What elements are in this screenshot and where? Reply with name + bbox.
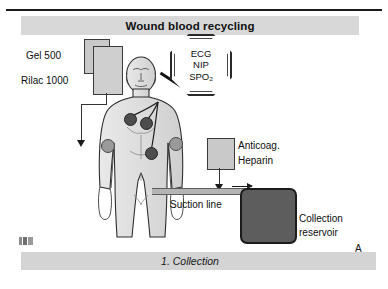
label-reservoir: reservoir — [299, 226, 338, 239]
monitor-line-nip: NIP — [193, 59, 209, 71]
collection-reservoir-icon — [240, 188, 297, 244]
label-gel-500: Gel 500 — [26, 49, 61, 62]
ecg-electrode-right-chest — [124, 113, 137, 126]
monitor-line-ecg: ECG — [191, 48, 212, 60]
label-rilac-1000: Rilac 1000 — [21, 74, 68, 87]
label-suction-line: Suction line — [170, 198, 222, 211]
monitor-octagon-icon: ECG NIP SPO₂ — [170, 34, 232, 96]
figure-panel: Wound blood recycling Gel 500 Rilac 1000 — [0, 0, 388, 289]
electrode-right-arm — [101, 139, 115, 153]
artist-signature-icon — [19, 237, 33, 245]
panel-letter: A — [355, 243, 362, 254]
ecg-electrode-left-chest — [140, 117, 153, 130]
label-collection: Collection — [299, 212, 343, 225]
figure-caption: 1. Collection — [21, 252, 359, 270]
iv-infusion-arrow-icon — [77, 140, 85, 147]
electrode-left-arm — [169, 137, 183, 151]
figure-title: Wound blood recycling — [21, 17, 359, 34]
iv-line-vertical — [81, 104, 82, 142]
flow-arrow-icon — [232, 186, 252, 187]
top-rule-divider — [6, 9, 382, 11]
monitor-line-spo2: SPO₂ — [189, 71, 213, 83]
label-anticoagulant: Anticoag. — [238, 139, 280, 152]
monitor-readout: ECG NIP SPO₂ — [170, 34, 232, 96]
anticoagulant-bag-icon — [207, 138, 235, 170]
label-heparin: Heparin — [238, 154, 273, 167]
ecg-electrode-lower-chest — [145, 147, 158, 160]
